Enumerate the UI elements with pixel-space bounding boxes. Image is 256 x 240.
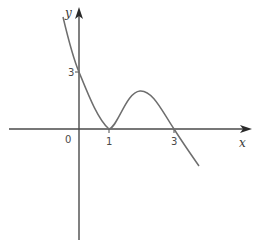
y-tick-label-3: 3 [68,67,74,78]
function-graph: x y 0 1 3 3 [0,0,256,240]
origin-label: 0 [65,134,71,145]
function-curve [63,17,199,166]
x-tick-label-1: 1 [106,136,112,147]
x-tick-label-3: 3 [171,136,177,147]
x-axis-label: x [239,136,246,150]
y-axis-label: y [64,6,72,20]
